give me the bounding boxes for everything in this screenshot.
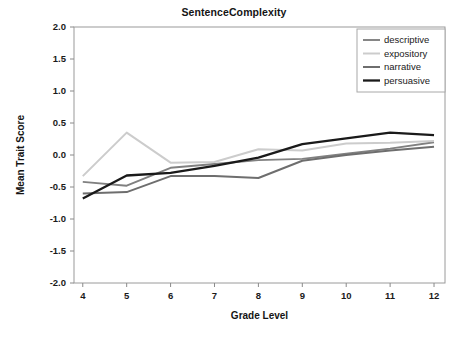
y-tick-label: 0.5 xyxy=(53,117,67,128)
y-tick-label: -2.0 xyxy=(50,277,66,288)
x-tick-label: 5 xyxy=(124,290,130,301)
x-axis-title: Grade Level xyxy=(231,310,288,321)
x-axis: 456789101112 xyxy=(80,283,439,301)
x-tick-label: 10 xyxy=(341,290,352,301)
y-axis: 2.01.51.00.50.0-0.5-1.0-1.5-2.0 xyxy=(50,21,74,288)
legend-label-persuasive: persuasive xyxy=(384,75,430,86)
y-tick-label: -1.0 xyxy=(50,213,66,224)
y-axis-title: Mean Trait Score xyxy=(15,115,26,195)
series-lines xyxy=(83,133,434,199)
x-tick-label: 8 xyxy=(256,290,261,301)
line-chart-svg: 2.01.51.00.50.0-0.5-1.0-1.5-2.0 45678910… xyxy=(0,0,468,337)
y-tick-label: 1.5 xyxy=(53,53,67,64)
x-tick-label: 9 xyxy=(300,290,305,301)
legend-label-narrative: narrative xyxy=(384,61,421,72)
chart-container: SentenceComplexity 2.01.51.00.50.0-0.5-1… xyxy=(0,0,468,337)
y-tick-label: 1.0 xyxy=(53,85,66,96)
legend-label-expository: expository xyxy=(384,48,428,59)
series-line-expository xyxy=(83,133,434,177)
x-tick-label: 12 xyxy=(429,290,440,301)
y-tick-label: -1.5 xyxy=(50,245,67,256)
y-tick-label: 0.0 xyxy=(53,149,66,160)
x-tick-label: 11 xyxy=(385,290,396,301)
y-tick-label: 2.0 xyxy=(53,21,66,32)
x-tick-label: 7 xyxy=(212,290,217,301)
x-tick-label: 6 xyxy=(168,290,173,301)
y-tick-label: -0.5 xyxy=(50,181,67,192)
x-tick-label: 4 xyxy=(80,290,86,301)
chart-legend: descriptiveexpositorynarrativepersuasive xyxy=(357,29,445,92)
legend-label-descriptive: descriptive xyxy=(384,34,429,45)
series-line-narrative xyxy=(83,147,434,194)
